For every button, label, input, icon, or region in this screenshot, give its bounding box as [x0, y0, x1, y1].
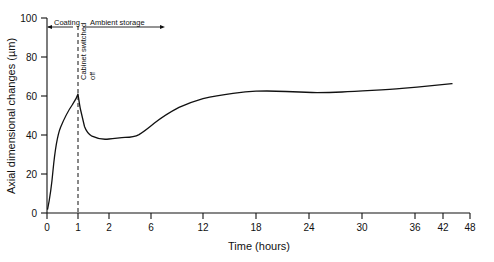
x-ticks	[47, 213, 470, 219]
x-axis-title: Time (hours)	[228, 240, 290, 252]
x-tick-label-18: 18	[250, 222, 262, 233]
x-tick-label-48: 48	[464, 222, 476, 233]
chart-container: 0 20 40 60 80 100 0 1 2 6 12	[0, 0, 494, 262]
x-tick-label-12: 12	[197, 222, 209, 233]
x-tick-label-30: 30	[356, 222, 368, 233]
line-chart: 0 20 40 60 80 100 0 1 2 6 12	[0, 0, 494, 262]
y-tick-label-100: 100	[20, 13, 37, 24]
ambient-storage-label: Ambient storage	[90, 18, 145, 27]
x-tick-label-36: 36	[409, 222, 421, 233]
y-tick-label-0: 0	[31, 208, 37, 219]
coating-arrow-head-icon	[47, 25, 52, 29]
x-tick-label-1: 1	[75, 222, 81, 233]
y-tick-labels: 0 20 40 60 80 100	[20, 13, 37, 219]
y-tick-label-40: 40	[26, 130, 38, 141]
y-tick-label-80: 80	[26, 52, 38, 63]
cabinet-switched-off-line1: Cabinet switched	[79, 23, 88, 80]
cabinet-switched-off-label: Cabinet switched off	[79, 23, 97, 80]
x-tick-label-24: 24	[303, 222, 315, 233]
x-tick-label-0: 0	[44, 222, 50, 233]
y-axis-title: Axial dimensional changes (µm)	[5, 38, 17, 194]
x-tick-label-2: 2	[106, 222, 112, 233]
data-line-series-0	[48, 84, 452, 209]
y-ticks	[41, 18, 47, 213]
x-tick-labels: 0 1 2 6 12 18 24 30 36 42 48	[44, 222, 476, 233]
y-tick-label-60: 60	[26, 91, 38, 102]
cabinet-switched-off-line2: off	[88, 71, 97, 80]
x-tick-label-6: 6	[148, 222, 154, 233]
coating-label: Coating	[54, 18, 80, 27]
y-tick-label-20: 20	[26, 169, 38, 180]
x-tick-label-42: 42	[437, 222, 449, 233]
ambient-arrow-head-icon	[160, 25, 165, 29]
